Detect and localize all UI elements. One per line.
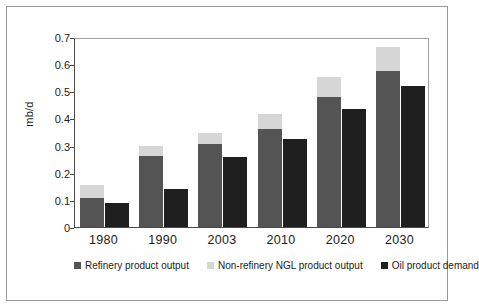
legend-item-label: Oil product demand (392, 260, 479, 271)
x-axis-tick-label: 2030 (385, 233, 414, 247)
legend-swatch-icon (207, 262, 214, 269)
bars-layer (75, 39, 428, 227)
x-axis-tick-label: 1980 (89, 233, 118, 247)
y-axis-tick-label: 0.2 (0, 168, 77, 180)
bar-group (317, 39, 366, 227)
legend-item-label: Refinery product output (85, 260, 189, 271)
bar-segment-non-refinery-ngl-product-output (198, 133, 222, 144)
bar-segment-refinery-product-output (198, 144, 222, 227)
legend-item-label: Non-refinery NGL product output (218, 260, 363, 271)
bar-group (80, 39, 129, 227)
plot-area (74, 38, 429, 228)
bar-oil-product-demand (283, 139, 307, 227)
y-axis-tick-label: 0.1 (0, 195, 77, 207)
legend-swatch-icon (381, 262, 388, 269)
bar-oil-product-demand (342, 109, 366, 227)
y-axis-tick-label: 0.3 (0, 141, 77, 153)
bar-group (258, 39, 307, 227)
bar-group (376, 39, 425, 227)
bar-fill-oil-product-demand (283, 139, 307, 227)
bar-stacked-supply (317, 77, 341, 227)
bar-segment-non-refinery-ngl-product-output (317, 77, 341, 97)
x-axis-tick-label: 1990 (148, 233, 177, 247)
bar-stacked-supply (376, 47, 400, 228)
x-axis-tick-label: 2020 (326, 233, 355, 247)
x-axis-tick-label: 2003 (207, 233, 236, 247)
bar-fill-oil-product-demand (342, 109, 366, 227)
legend-item: Oil product demand (381, 260, 479, 271)
bar-segment-non-refinery-ngl-product-output (139, 146, 163, 156)
y-axis-tick-label: 0.6 (0, 59, 77, 71)
bar-segment-non-refinery-ngl-product-output (258, 114, 282, 129)
y-axis-tick-label: 0 (0, 222, 77, 234)
bar-fill-oil-product-demand (223, 157, 247, 227)
y-axis-tick-mark (70, 228, 74, 229)
bar-group (198, 39, 247, 227)
bar-segment-refinery-product-output (317, 97, 341, 227)
x-axis-tick-label: 2010 (267, 233, 296, 247)
y-axis-tick-label: 0.5 (0, 86, 77, 98)
y-axis-tick-label: 0.4 (0, 113, 77, 125)
bar-oil-product-demand (164, 189, 188, 227)
legend-swatch-icon (74, 262, 81, 269)
legend-item: Refinery product output (74, 260, 189, 271)
legend-item: Non-refinery NGL product output (207, 260, 363, 271)
bar-fill-oil-product-demand (105, 203, 129, 227)
bar-group (139, 39, 188, 227)
bar-fill-oil-product-demand (401, 86, 425, 227)
bar-stacked-supply (198, 133, 222, 227)
bar-stacked-supply (80, 185, 104, 227)
bar-stacked-supply (258, 114, 282, 227)
bar-segment-non-refinery-ngl-product-output (80, 185, 104, 198)
bar-fill-oil-product-demand (164, 189, 188, 227)
bar-segment-refinery-product-output (258, 129, 282, 227)
bar-segment-refinery-product-output (139, 156, 163, 227)
bar-stacked-supply (139, 146, 163, 227)
bar-segment-refinery-product-output (376, 71, 400, 227)
chart-legend: Refinery product outputNon-refinery NGL … (74, 260, 434, 271)
bar-oil-product-demand (223, 157, 247, 227)
bar-segment-refinery-product-output (80, 198, 104, 227)
bar-segment-non-refinery-ngl-product-output (376, 47, 400, 71)
bar-oil-product-demand (401, 86, 425, 227)
y-axis-tick-label: 0.7 (0, 32, 77, 44)
bar-oil-product-demand (105, 203, 129, 227)
